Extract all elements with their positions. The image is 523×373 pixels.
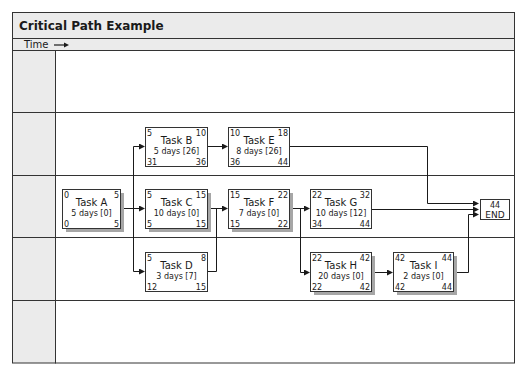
early-start: 0	[64, 191, 69, 200]
task-i-node[interactable]: 42 44 Task I 2 days [0] 42 44	[394, 253, 458, 296]
task-h-node[interactable]: 22 42 Task H 20 days [0] 22 42	[311, 253, 376, 296]
early-finish: 32	[360, 191, 370, 200]
task-duration: 8 days [26]	[236, 147, 281, 156]
early-finish: 8	[201, 254, 206, 263]
late-start: 36	[230, 158, 240, 167]
task-d-node[interactable]: 5 8 Task D 3 days [7] 12 15	[146, 253, 208, 293]
end-node[interactable]: 44 END	[481, 200, 510, 220]
early-finish: 42	[360, 254, 370, 263]
task-name: Task H	[324, 260, 357, 271]
task-duration: 20 days [0]	[318, 272, 363, 281]
late-start: 42	[395, 283, 405, 292]
early-finish: 22	[278, 191, 288, 200]
early-start: 22	[312, 254, 322, 263]
early-finish: 15	[196, 191, 206, 200]
late-finish: 15	[196, 283, 206, 292]
early-start: 5	[147, 191, 152, 200]
late-finish: 36	[196, 158, 206, 167]
early-finish: 18	[278, 129, 288, 138]
early-start: 5	[147, 129, 152, 138]
task-g-node[interactable]: 22 32 Task G 10 days [12] 34 44	[311, 190, 372, 230]
late-finish: 44	[360, 220, 370, 229]
task-duration: 2 days [0]	[403, 272, 443, 281]
late-start: 0	[64, 220, 69, 229]
critical-path-diagram: Critical Path Example Time	[0, 0, 523, 373]
time-row	[13, 39, 515, 51]
late-finish: 22	[278, 220, 288, 229]
task-duration: 7 days [0]	[239, 209, 279, 218]
late-finish: 42	[360, 283, 370, 292]
late-start: 22	[312, 283, 322, 292]
task-duration: 10 days [0]	[154, 209, 199, 218]
late-start: 31	[147, 158, 157, 167]
early-start: 22	[312, 191, 322, 200]
task-f-node[interactable]: 15 22 Task F 7 days [0] 15 22	[229, 190, 294, 233]
time-label: Time	[23, 39, 48, 50]
task-name: Task E	[242, 135, 274, 146]
late-finish: 5	[114, 220, 119, 229]
early-start: 42	[395, 254, 405, 263]
late-finish: 44	[442, 283, 452, 292]
task-b-node[interactable]: 5 10 Task B 5 days [26] 31 36	[146, 128, 208, 168]
task-e-node[interactable]: 10 18 Task E 8 days [26] 36 44	[229, 128, 290, 168]
early-finish: 5	[114, 191, 119, 200]
task-duration: 5 days [0]	[71, 209, 111, 218]
late-finish: 44	[278, 158, 288, 167]
late-start: 34	[312, 220, 322, 229]
task-duration: 10 days [12]	[316, 209, 367, 218]
task-name: Task B	[160, 135, 193, 146]
task-duration: 5 days [26]	[154, 147, 199, 156]
diagram-title: Critical Path Example	[19, 19, 164, 33]
task-name: Task A	[75, 197, 108, 208]
late-finish: 15	[196, 220, 206, 229]
task-a-node[interactable]: 0 5 Task A 5 days [0] 0 5	[63, 190, 125, 233]
end-label: END	[485, 210, 504, 220]
early-start: 5	[147, 254, 152, 263]
early-finish: 10	[196, 129, 206, 138]
task-name: Task G	[324, 197, 358, 208]
task-name: Task D	[159, 260, 193, 271]
early-start: 15	[230, 191, 240, 200]
late-start: 5	[147, 220, 152, 229]
early-finish: 44	[442, 254, 452, 263]
early-start: 10	[230, 129, 240, 138]
lane-header-column	[13, 51, 56, 364]
task-name: Task F	[243, 197, 275, 208]
task-c-node[interactable]: 5 15 Task C 10 days [0] 5 15	[146, 190, 212, 233]
late-start: 15	[230, 220, 240, 229]
task-name: Task I	[409, 260, 438, 271]
late-start: 12	[147, 283, 157, 292]
task-duration: 3 days [7]	[156, 272, 196, 281]
task-name: Task C	[160, 197, 193, 208]
